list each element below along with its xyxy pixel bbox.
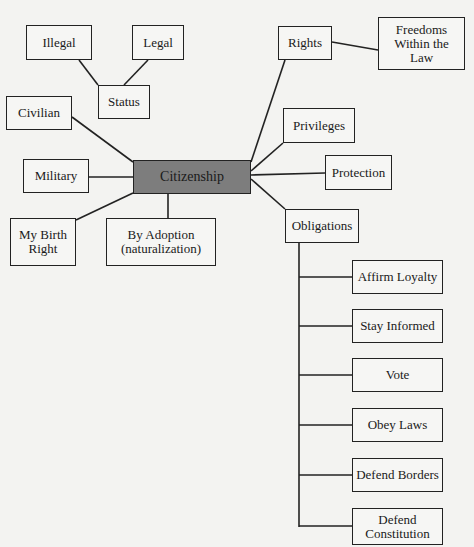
node-status: Status xyxy=(98,85,150,119)
node-citizenship: Citizenship xyxy=(133,160,251,194)
node-civilian: Civilian xyxy=(6,96,72,130)
node-rights: Rights xyxy=(278,26,332,60)
node-illegal: Illegal xyxy=(26,25,92,60)
node-military: Military xyxy=(23,159,89,193)
node-obligations: Obligations xyxy=(285,209,359,243)
obligation-affirm-loyalty: Affirm Loyalty xyxy=(352,260,443,294)
node-legal: Legal xyxy=(132,25,184,60)
node-protection: Protection xyxy=(325,155,392,190)
obligation-defend-borders: Defend Borders xyxy=(352,458,443,492)
obligation-obey-laws: Obey Laws xyxy=(352,408,443,442)
node-privileges: Privileges xyxy=(283,108,355,143)
obligation-vote: Vote xyxy=(352,358,443,392)
obligation-defend-constitution: Defend Constitution xyxy=(352,508,443,545)
node-freedoms-within-the-law: Freedoms Within the Law xyxy=(378,17,465,70)
obligation-stay-informed: Stay Informed xyxy=(352,309,443,343)
node-birth-right: My Birth Right xyxy=(10,218,76,266)
node-by-adoption: By Adoption (naturalization) xyxy=(106,218,216,266)
